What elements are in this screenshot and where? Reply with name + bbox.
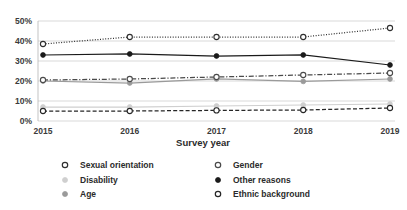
legend-item-label[interactable]: Gender [233,160,263,170]
line-chart-figure: 0%10%20%30%40%50% 20152016201720182019 S… [0,0,407,210]
legend-marker-icon [216,178,221,183]
data-point [40,108,45,113]
data-point [214,54,219,59]
data-point [388,63,393,68]
legend-item-label[interactable]: Age [80,189,96,199]
legend-item-label[interactable]: Other reasons [233,175,291,185]
data-point [301,34,306,39]
data-point [388,77,393,82]
y-tick-label: 30% [15,56,32,66]
chart-svg: 0%10%20%30%40%50% 20152016201720182019 S… [0,0,407,210]
y-tick-label: 50% [15,16,32,26]
x-tick-label: 2019 [381,126,400,136]
y-tick-label: 0% [20,116,33,126]
data-point [214,108,219,113]
y-tick-label: 10% [15,96,32,106]
legend-marker-icon [62,162,67,167]
x-axis-tick-labels: 20152016201720182019 [34,126,400,136]
legend-item-label[interactable]: Sexual orientation [80,160,154,170]
legend-marker-icon [215,191,220,196]
x-tick-label: 2017 [207,126,226,136]
data-point [387,105,392,110]
legend-item-label[interactable]: Ethnic background [233,189,310,199]
y-tick-label: 40% [15,36,32,46]
legend-marker-icon [63,178,68,183]
chart-legend: Sexual orientationDisabilityAgeGenderOth… [62,160,310,199]
data-point [40,41,45,46]
x-axis-title: Survey year [176,137,230,148]
y-axis-tick-labels: 0%10%20%30%40%50% [15,16,32,126]
data-point [127,76,132,81]
series-layer [40,25,392,113]
data-point [127,108,132,113]
data-point [387,70,392,75]
data-point [214,74,219,79]
x-tick-label: 2018 [294,126,313,136]
data-point [127,52,132,57]
y-tick-label: 20% [15,76,32,86]
data-point [301,103,306,108]
legend-item-label[interactable]: Disability [80,175,118,185]
data-point [387,25,392,30]
legend-marker-icon [63,192,68,197]
x-tick-label: 2015 [34,126,53,136]
data-point [301,53,306,58]
legend-marker-icon [215,162,220,167]
series-other-reasons [41,52,393,68]
series-sexual-orientation [40,25,392,46]
x-tick-label: 2016 [120,126,139,136]
data-point [301,72,306,77]
data-point [41,53,46,58]
data-point [40,77,45,82]
data-point [301,79,306,84]
data-point [214,34,219,39]
data-point [127,34,132,39]
data-point [301,107,306,112]
